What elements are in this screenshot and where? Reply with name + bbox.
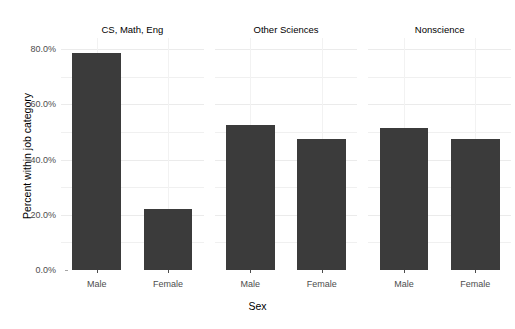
facet-panel-title: Nonscience [368, 22, 511, 38]
bar-chart: Percent within job category 0.0%20.0%40.… [0, 0, 515, 329]
bar [451, 139, 500, 270]
y-tick-label: 80.0% [10, 44, 56, 54]
facet-panels: CS, Math, EngOther SciencesNonscience [61, 22, 511, 270]
x-tick-mark [404, 270, 405, 273]
gridline-minor [215, 77, 358, 78]
panel-plot-area [368, 38, 511, 270]
x-tick-group: MaleFemale [368, 270, 511, 292]
gridline-major [215, 104, 358, 105]
facet-panel-title: CS, Math, Eng [61, 22, 204, 38]
y-tick-label: 0.0% [10, 265, 56, 275]
panel-plot-area [215, 38, 358, 270]
facet-panel-title: Other Sciences [215, 22, 358, 38]
x-tick-label: Male [241, 279, 261, 289]
x-tick-label: Male [87, 279, 107, 289]
gridline-major [61, 49, 204, 50]
x-axis-title: Sex [0, 300, 515, 312]
y-axis-ticks: 0.0%20.0%40.0%60.0%80.0% [8, 0, 56, 329]
bar [226, 125, 275, 270]
gridline-major [215, 49, 358, 50]
x-tick-mark [97, 270, 98, 273]
x-tick-mark [322, 270, 323, 273]
x-tick-group: MaleFemale [215, 270, 358, 292]
gridline-major [368, 104, 511, 105]
x-tick-label: Female [307, 279, 337, 289]
x-axis-ticks: MaleFemaleMaleFemaleMaleFemale [61, 270, 511, 292]
panel-plot-area [61, 38, 204, 270]
x-tick-label: Female [460, 279, 490, 289]
x-tick-label: Female [153, 279, 183, 289]
y-tick-label: 60.0% [10, 99, 56, 109]
x-tick-mark [475, 270, 476, 273]
bar [380, 128, 429, 270]
x-tick-mark [168, 270, 169, 273]
bar [72, 53, 121, 270]
bar [144, 209, 193, 270]
facet-panel: Nonscience [368, 22, 511, 270]
bar [297, 139, 346, 270]
x-tick-group: MaleFemale [61, 270, 204, 292]
x-tick-label: Male [394, 279, 414, 289]
gridline-major [368, 49, 511, 50]
x-tick-mark [250, 270, 251, 273]
y-tick-label: 40.0% [10, 155, 56, 165]
gridline-minor [368, 77, 511, 78]
facet-panel: Other Sciences [215, 22, 358, 270]
y-tick-label: 20.0% [10, 210, 56, 220]
facet-panel: CS, Math, Eng [61, 22, 204, 270]
